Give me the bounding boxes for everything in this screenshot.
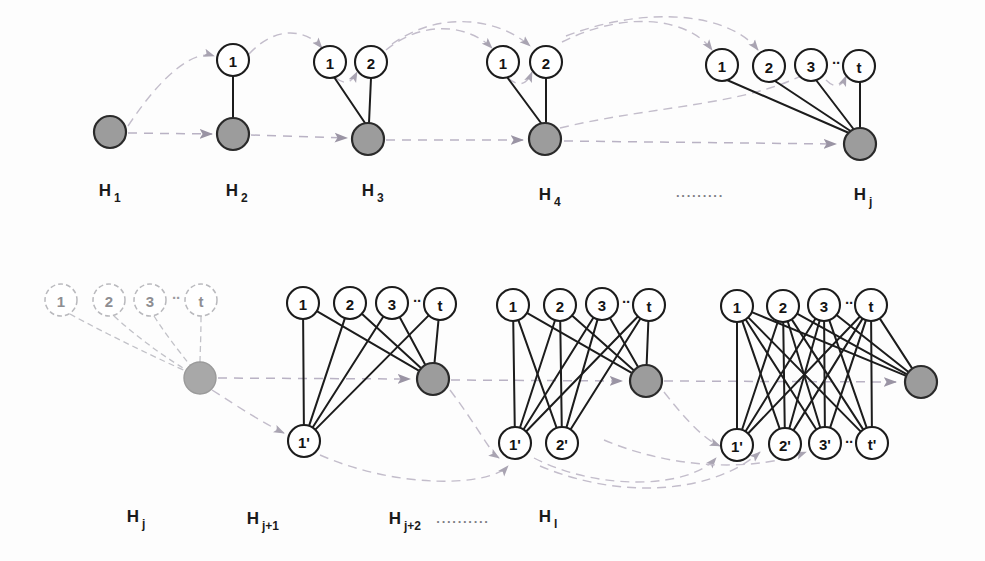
stage-label-H1: H1 xyxy=(99,181,121,205)
node-top: 2 xyxy=(355,46,387,78)
node-top: 1 xyxy=(487,46,519,78)
node-bottom: t' xyxy=(856,427,888,459)
node-label: 3' xyxy=(819,436,831,453)
node-bottom: 1' xyxy=(288,425,320,457)
inline-ellipsis: ·· xyxy=(622,293,630,310)
node-label: 1 xyxy=(229,53,237,70)
stage-label-main: H xyxy=(539,507,551,526)
hub-node xyxy=(417,363,449,395)
stage-label-sub: 4 xyxy=(554,195,561,209)
ghost-node-top: 2 xyxy=(93,284,125,316)
node-top: 2 xyxy=(530,46,562,78)
stage-label-main: H xyxy=(99,181,111,200)
node-top: 1 xyxy=(706,49,738,81)
node-label: 1' xyxy=(509,436,521,453)
hyperedge-line xyxy=(309,318,345,426)
node-top: 1 xyxy=(287,287,319,319)
inline-ellipsis: ·· xyxy=(413,292,421,309)
node-label: 1' xyxy=(298,434,310,451)
node-top: 1 xyxy=(217,44,249,76)
node-top: 3 xyxy=(586,288,618,320)
hyperedge-line xyxy=(871,321,872,427)
stage-label-main: H xyxy=(389,509,401,528)
node-label: 1 xyxy=(733,299,741,316)
hub-node xyxy=(905,366,937,398)
node-top: 2 xyxy=(334,287,366,319)
stage-label-sub: j xyxy=(868,195,872,209)
hypergraph-sequence-figure: 11212123t·· H1H2H3H4Hj ········· 12 xyxy=(0,0,985,561)
ghost-node-top: 3 xyxy=(134,284,166,316)
stage-label-H4: H4 xyxy=(539,185,561,209)
hub-node xyxy=(529,123,561,155)
inline-ellipsis: ·· xyxy=(172,289,180,306)
hyperedge-line xyxy=(513,321,515,427)
hyperedge-line xyxy=(783,322,785,428)
node-label: 1 xyxy=(326,55,334,72)
node-bottom: 1' xyxy=(499,427,531,459)
node-label: 2 xyxy=(346,296,354,313)
stage-label-main: H xyxy=(127,507,139,526)
stage-label-sub: 2 xyxy=(241,191,248,205)
inline-ellipsis: ·· xyxy=(845,294,853,311)
node-label: 3 xyxy=(598,297,606,314)
node-bottom: 1' xyxy=(721,429,753,461)
hub-node xyxy=(844,128,876,160)
node-top: 1 xyxy=(314,46,346,78)
node-label: 1 xyxy=(718,58,726,75)
bottom-ghost-arcs xyxy=(70,314,806,488)
hyperedge-line xyxy=(824,321,825,427)
node-top: t xyxy=(633,289,665,321)
hub-node xyxy=(94,116,126,148)
node-top: t xyxy=(855,289,887,321)
stage-label-main: H xyxy=(539,185,551,204)
node-label: 1 xyxy=(299,296,307,313)
top-row-stage-labels: H1H2H3H4Hj xyxy=(99,181,872,209)
node-label: 2' xyxy=(556,436,568,453)
node-top: t xyxy=(843,50,875,82)
hyperedge-line xyxy=(560,321,562,427)
stage-label-Hj+2: Hj+2 xyxy=(389,509,421,533)
stage-label-sub: 1 xyxy=(114,191,121,205)
node-label: 1 xyxy=(57,293,65,310)
inline-ellipsis: ·· xyxy=(832,54,840,71)
ghost-node-top: t xyxy=(185,284,217,316)
stage-label-Hj-repeat: Hj xyxy=(127,507,145,531)
stage-label-Hj+1: Hj+1 xyxy=(247,509,279,533)
figure-canvas: 11212123t·· H1H2H3H4Hj ········· 12 xyxy=(0,0,985,561)
hub-node xyxy=(217,118,249,150)
stage-label-Hj: Hj xyxy=(854,185,872,209)
node-label: 2 xyxy=(556,298,564,315)
node-label: t xyxy=(199,293,204,310)
node-label: 2 xyxy=(105,293,113,310)
hub-node xyxy=(630,365,662,397)
node-label: 1 xyxy=(499,55,507,72)
hyperedge-line xyxy=(526,316,638,431)
stage-label-sub: j+1 xyxy=(261,519,279,533)
inline-ellipsis: ·· xyxy=(845,433,853,450)
bottom-backbone-flow xyxy=(218,378,896,382)
bottom-row-gap-ellipsis: ·········· xyxy=(436,514,489,529)
node-label: 2 xyxy=(367,55,375,72)
hub-node xyxy=(184,362,216,394)
stage-label-H2: H2 xyxy=(226,181,248,205)
bottom-solid-edges xyxy=(303,311,912,433)
node-label: 2 xyxy=(542,55,550,72)
bottom-row-stage-labels: HjHj+1Hj+2Hl xyxy=(127,507,557,533)
hyperedge-line xyxy=(434,320,438,363)
node-label: 1' xyxy=(731,438,743,455)
node-label: t xyxy=(647,298,652,315)
node-top: 2 xyxy=(544,289,576,321)
node-top: 2 xyxy=(753,50,785,82)
node-label: t' xyxy=(868,436,877,453)
node-top: 1 xyxy=(721,290,753,322)
stage-label-H3: H3 xyxy=(362,181,384,205)
node-top: t xyxy=(424,288,456,320)
stage-label-main: H xyxy=(247,509,259,528)
node-top: 3 xyxy=(376,287,408,319)
node-top: 3 xyxy=(795,49,827,81)
stage-label-Hl: Hl xyxy=(539,507,557,531)
node-label: 3 xyxy=(388,296,396,313)
stage-label-sub: 3 xyxy=(377,191,384,205)
node-top: 3 xyxy=(808,289,840,321)
hyperedge-line xyxy=(520,320,555,428)
